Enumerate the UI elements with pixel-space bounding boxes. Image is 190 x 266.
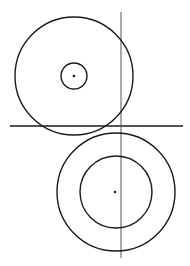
diagram-canvas <box>0 0 190 266</box>
geometry-diagram <box>0 0 190 266</box>
upper-center-point <box>73 75 76 78</box>
lower-center-point <box>114 191 117 194</box>
background <box>0 0 190 266</box>
